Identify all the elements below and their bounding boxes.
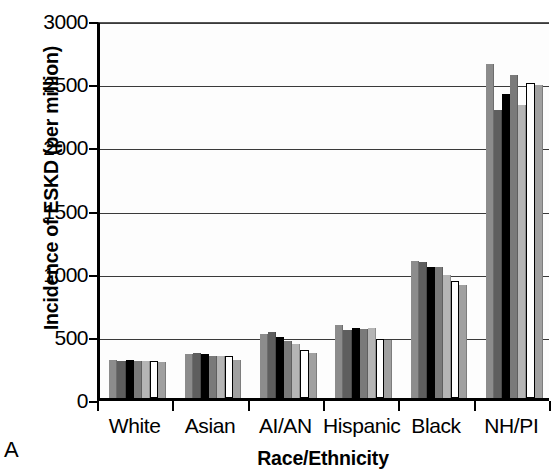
bar: [201, 354, 209, 398]
x-axis-tick-mark: [172, 401, 174, 411]
bar: [109, 360, 117, 398]
bar: [451, 281, 459, 398]
y-axis-tick-mark: [89, 275, 98, 277]
bar: [352, 328, 360, 398]
x-axis-tick-label: Hispanic: [323, 414, 398, 437]
bar: [360, 329, 368, 398]
bar: [343, 330, 351, 398]
x-axis-title: Race/Ethnicity: [97, 447, 549, 470]
y-axis-tick-mark: [89, 148, 98, 150]
bar: [309, 353, 317, 398]
bar: [260, 334, 268, 398]
x-axis-tick-mark: [398, 401, 400, 411]
x-axis-tick-mark: [323, 401, 325, 411]
bar: [117, 361, 125, 398]
bar: [233, 360, 241, 398]
y-axis-tick-mark: [89, 22, 98, 24]
bar: [502, 94, 510, 398]
bar: [150, 361, 158, 398]
bar: [368, 328, 376, 398]
y-axis-tick-mark: [89, 212, 98, 214]
panel-label: A: [4, 437, 19, 463]
x-axis-tick-label: White: [97, 414, 172, 437]
bar: [134, 361, 142, 398]
bar: [411, 261, 419, 398]
bar: [142, 361, 150, 398]
bar: [510, 75, 518, 398]
bar: [435, 267, 443, 398]
y-axis-tick-label: 1500: [26, 201, 88, 222]
bar: [268, 332, 276, 398]
bar: [225, 356, 233, 398]
y-axis-tick-labels: 050010001500200025003000: [26, 0, 88, 466]
y-axis-tick-label: 500: [26, 327, 88, 348]
bar: [419, 262, 427, 398]
bar: [443, 275, 451, 398]
bar: [518, 105, 526, 398]
y-axis-tick-label: 3000: [26, 11, 88, 32]
y-axis-tick-mark: [89, 338, 98, 340]
y-axis-tick-mark: [89, 85, 98, 87]
y-axis-tick-label: 2000: [26, 137, 88, 158]
plot-area: [97, 22, 549, 401]
bar: [376, 339, 384, 398]
y-axis-tick-label: 2500: [26, 74, 88, 95]
bar: [486, 64, 494, 398]
bar: [459, 285, 467, 398]
x-axis-tick-mark: [248, 401, 250, 411]
bars-container: [100, 23, 549, 398]
bar: [526, 83, 534, 398]
bar: [217, 356, 225, 398]
bar: [126, 360, 134, 398]
y-axis-tick-label: 1000: [26, 264, 88, 285]
bar: [300, 350, 308, 398]
bar: [276, 337, 284, 398]
bar: [158, 362, 166, 398]
bar: [535, 85, 543, 398]
x-axis-tick-mark: [474, 401, 476, 411]
bar: [193, 353, 201, 398]
x-axis-tick-label: Asian: [172, 414, 247, 437]
y-axis-tick-label: 0: [26, 390, 88, 411]
bar: [335, 325, 343, 398]
bar: [384, 340, 392, 398]
x-axis-tick-label: NH/PI: [474, 414, 549, 437]
bar: [284, 341, 292, 398]
x-axis-tick-mark: [97, 401, 99, 411]
bar: [209, 356, 217, 398]
bar: [427, 267, 435, 398]
bar: [292, 344, 300, 398]
bar: [185, 354, 193, 398]
x-axis-tick-label: AI/AN: [248, 414, 323, 437]
bar: [494, 110, 502, 398]
x-axis-tick-label: Black: [398, 414, 473, 437]
